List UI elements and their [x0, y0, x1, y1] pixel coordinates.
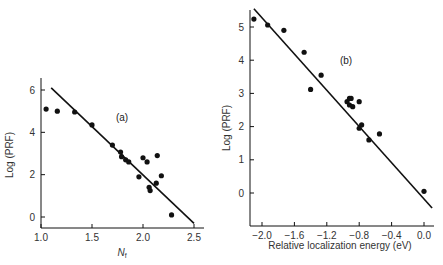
- y-tick-label: 2: [29, 169, 35, 180]
- panel-label: (b): [340, 55, 352, 66]
- y-tick-label: 5: [238, 22, 244, 33]
- data-point: [44, 106, 49, 111]
- figure: 1.01.52.02.50246(a)NfLog (PRF) −2.0−1.6−…: [0, 0, 443, 265]
- regression-line: [254, 9, 432, 208]
- data-point: [55, 109, 60, 114]
- data-point: [136, 174, 141, 179]
- y-tick-label: 4: [238, 55, 244, 66]
- data-point: [72, 109, 77, 114]
- data-point: [119, 154, 124, 159]
- data-point: [302, 50, 307, 55]
- data-point: [349, 96, 354, 101]
- scatter-charts: 1.01.52.02.50246(a)NfLog (PRF) −2.0−1.6−…: [0, 0, 443, 265]
- data-point: [110, 142, 115, 147]
- x-tick-label: 1.0: [34, 232, 48, 243]
- chart-panel-a: 1.01.52.02.50246(a)NfLog (PRF): [4, 78, 204, 259]
- data-point: [140, 155, 145, 160]
- x-tick-label: 1.5: [85, 232, 99, 243]
- y-tick-label: 4: [29, 127, 35, 138]
- panel-label: (a): [116, 112, 128, 123]
- x-axis-label: Nf: [117, 247, 126, 259]
- data-point: [148, 188, 153, 193]
- data-point: [169, 212, 174, 217]
- data-point: [251, 16, 256, 21]
- y-axis-label: Log (PRF): [4, 132, 15, 178]
- data-point: [319, 73, 324, 78]
- data-point: [350, 104, 355, 109]
- data-point: [89, 122, 94, 127]
- data-point: [308, 87, 313, 92]
- data-point: [281, 28, 286, 33]
- data-point: [159, 173, 164, 178]
- y-tick-label: 2: [238, 121, 244, 132]
- y-tick-label: 6: [29, 85, 35, 96]
- data-point: [154, 181, 159, 186]
- data-point: [377, 131, 382, 136]
- data-point: [359, 122, 364, 127]
- y-tick-label: 3: [238, 88, 244, 99]
- data-point: [118, 149, 123, 154]
- x-tick-label: 0.0: [417, 230, 431, 241]
- data-point: [265, 22, 270, 27]
- data-point: [421, 189, 426, 194]
- data-point: [366, 137, 371, 142]
- data-point: [126, 159, 131, 164]
- y-tick-label: 0: [238, 188, 244, 199]
- data-point: [155, 153, 160, 158]
- x-tick-label: 2.0: [136, 232, 150, 243]
- y-tick-label: 0: [29, 212, 35, 223]
- data-point: [357, 99, 362, 104]
- data-point: [144, 159, 149, 164]
- y-tick-label: 1: [238, 154, 244, 165]
- chart-panel-b: −2.0−1.6−1.2−0.8−0.40.0012345(b)Relative…: [221, 9, 434, 251]
- y-axis-label: Log (PRF): [221, 105, 232, 151]
- x-axis-label: Relative localization energy (eV): [268, 240, 411, 251]
- x-tick-label: 2.5: [187, 232, 201, 243]
